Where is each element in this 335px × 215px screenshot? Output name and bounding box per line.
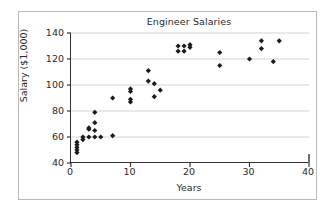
data-point: [259, 46, 264, 51]
data-point: [152, 81, 157, 86]
data-point: [86, 134, 91, 139]
data-point: [187, 45, 192, 50]
data-point: [146, 79, 151, 84]
x-tick-label: 40: [293, 166, 323, 177]
plot-area: [70, 33, 308, 163]
chart-title: Engineer Salaries: [70, 16, 308, 27]
data-point: [176, 49, 181, 54]
y-tick-label: 140: [30, 27, 64, 38]
x-axis-tick-labels: 010203040: [70, 166, 308, 180]
chart-figure: Engineer Salaries Salary ($1,000) 406080…: [0, 0, 335, 215]
data-point: [110, 133, 115, 138]
data-point: [271, 59, 276, 64]
x-tick-label: 20: [174, 166, 204, 177]
x-tick-label: 30: [234, 166, 264, 177]
data-point: [277, 38, 282, 43]
data-point: [181, 49, 186, 54]
x-tick-label: 0: [55, 166, 85, 177]
data-point: [92, 110, 97, 115]
data-point: [110, 95, 115, 100]
y-tick-label: 100: [30, 79, 64, 90]
data-point: [92, 120, 97, 125]
data-point: [98, 134, 103, 139]
data-point: [259, 38, 264, 43]
x-tick-label: 10: [115, 166, 145, 177]
data-point: [181, 43, 186, 48]
data-point: [152, 94, 157, 99]
data-point: [217, 50, 222, 55]
data-point: [92, 128, 97, 133]
y-tick-label: 60: [30, 131, 64, 142]
scatter-plot-svg: [71, 33, 309, 163]
data-point: [217, 63, 222, 68]
y-axis-tick-labels: 406080100120140: [26, 33, 64, 163]
data-point: [176, 43, 181, 48]
data-point: [92, 134, 97, 139]
x-axis-label: Years: [70, 182, 308, 193]
data-point: [247, 56, 252, 61]
y-tick-label: 120: [30, 53, 64, 64]
data-point: [146, 68, 151, 73]
y-tick-label: 80: [30, 105, 64, 116]
data-point: [158, 88, 163, 93]
